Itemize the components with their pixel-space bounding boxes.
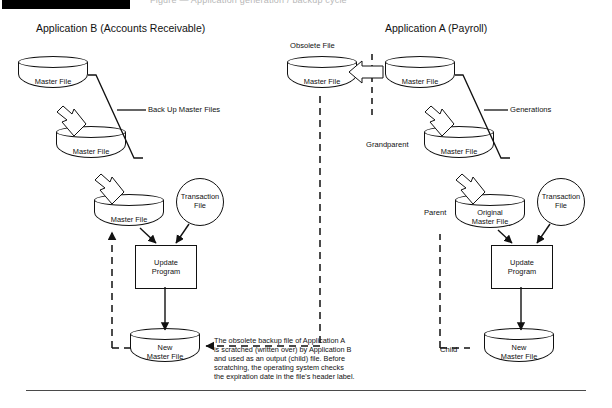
arrow-master-to-update-left [140, 228, 156, 243]
block-arrow-backup-left-upper [57, 106, 86, 136]
figure-canvas: Figure — Application generation / backup… [0, 0, 612, 408]
block-arrow-backup-left-lower [95, 174, 124, 204]
arrow-master-to-update-right [498, 230, 512, 243]
block-arrow-generations-right-upper [425, 106, 454, 136]
connector-layer [0, 0, 612, 408]
arrow-transaction-to-update-right [537, 224, 550, 243]
bracket-back-up-master-files [88, 75, 146, 158]
block-arrow-generations-right-lower [456, 174, 485, 204]
bracket-generations [455, 75, 510, 158]
arrow-transaction-to-update-left [176, 224, 189, 243]
block-arrow-obsolete-right [349, 61, 383, 83]
